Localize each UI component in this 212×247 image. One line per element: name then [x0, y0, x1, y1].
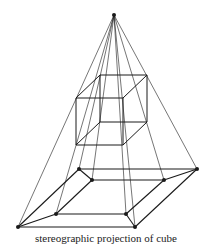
- vertex-dot: [90, 178, 94, 182]
- projected-edge: [18, 214, 56, 227]
- projection-ray: [114, 15, 126, 214]
- figure: stereographic projection of cube: [0, 0, 212, 247]
- vertex-dot: [162, 178, 166, 182]
- vertex-dot: [195, 167, 199, 171]
- projected-edge: [18, 169, 79, 227]
- projected-edge: [79, 169, 92, 180]
- stereographic-projection-diagram: [0, 0, 212, 232]
- vertex-dot: [54, 212, 58, 216]
- cube-edge: [123, 122, 147, 145]
- projected-edge: [164, 169, 197, 180]
- projected-edge: [126, 180, 164, 214]
- figure-caption: stereographic projection of cube: [0, 232, 212, 244]
- cube-edge: [76, 75, 100, 98]
- vertex-dot: [16, 225, 20, 229]
- vertex-dot: [112, 13, 116, 17]
- projection-ray: [114, 15, 197, 169]
- vertex-dot: [124, 212, 128, 216]
- vertex-dot: [77, 167, 81, 171]
- projection-ray: [114, 15, 135, 227]
- cube-edge: [123, 75, 147, 98]
- vertex-dot: [133, 225, 137, 229]
- projection-ray: [56, 15, 114, 214]
